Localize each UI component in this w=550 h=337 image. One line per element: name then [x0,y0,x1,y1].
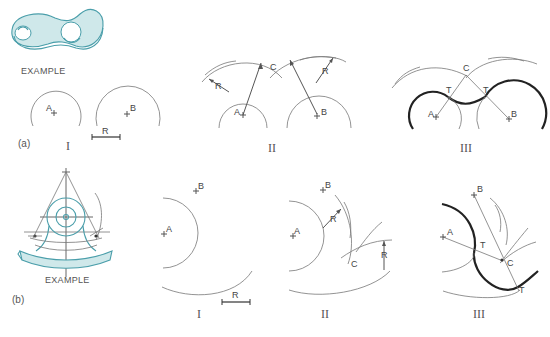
svg-text:T: T [446,85,452,95]
part-a-step-3-numeral: III [460,141,472,155]
svg-text:R: R [232,290,239,300]
svg-text:C: C [507,258,514,268]
svg-text:A: A [46,103,52,113]
svg-text:B: B [198,181,204,191]
part-b-step-2-numeral: II [321,307,329,321]
part-b-label: (b) [12,294,24,305]
svg-text:B: B [325,180,331,190]
part-b-step-3-numeral: III [473,307,485,321]
part-a-label: (a) [18,138,30,149]
tangent-arc-construction-figure: EXAMPLE A B R I (a) A B C R R [0,0,550,337]
svg-text:R: R [215,81,222,91]
part-b-example-bracket [18,168,112,277]
svg-text:R: R [330,214,337,224]
part-a-example-label: EXAMPLE [21,66,66,76]
svg-text:A: A [447,227,453,237]
svg-text:B: B [511,109,517,119]
part-b-step-1: A B R I [161,181,252,321]
part-b-example-label: EXAMPLE [45,275,90,285]
part-b-step-1-numeral: I [197,307,201,321]
svg-text:R: R [322,66,329,76]
svg-text:R: R [381,250,388,260]
part-a-example-link [12,10,103,50]
part-a-step-2-numeral: II [268,141,276,155]
svg-text:T: T [519,285,525,295]
part-a-step-3: A B C T T III [392,57,546,155]
svg-text:T: T [480,240,486,250]
svg-text:B: B [321,107,327,117]
svg-text:C: C [270,62,277,72]
part-a-step-1: A B R I [31,86,160,153]
svg-text:A: A [234,107,240,117]
svg-text:R: R [102,126,109,136]
svg-text:B: B [477,184,483,194]
svg-text:T: T [483,85,489,95]
part-a-step-2: A B C R R II [202,57,351,155]
part-b-step-3: A B C T T III [440,184,538,321]
svg-text:C: C [351,259,358,269]
part-a-step-1-numeral: I [66,139,70,153]
svg-text:A: A [428,109,434,119]
svg-text:A: A [166,224,172,234]
svg-text:C: C [463,63,470,73]
svg-text:B: B [130,103,136,113]
part-b-step-2: A B R R C II [289,180,392,321]
svg-text:A: A [294,226,300,236]
